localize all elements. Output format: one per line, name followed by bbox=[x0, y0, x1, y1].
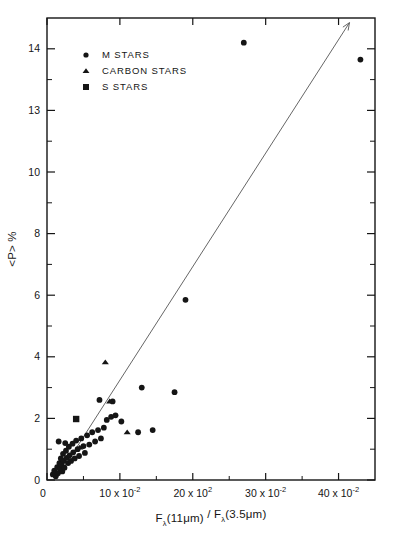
y-tick-label: 2 bbox=[34, 412, 40, 424]
y-tick-label: 13 bbox=[28, 104, 40, 116]
data-point bbox=[78, 436, 84, 442]
y-tick-label: 10 bbox=[28, 166, 40, 178]
data-point bbox=[82, 450, 88, 456]
data-point bbox=[73, 438, 79, 444]
y-tick-label: 6 bbox=[34, 289, 40, 301]
data-point bbox=[135, 429, 141, 435]
data-point bbox=[84, 432, 90, 438]
data-point bbox=[183, 297, 189, 303]
data-point bbox=[97, 397, 103, 403]
data-point bbox=[56, 439, 62, 445]
data-point bbox=[150, 427, 156, 433]
data-point bbox=[92, 439, 98, 445]
data-point bbox=[73, 416, 79, 422]
data-point bbox=[113, 412, 119, 418]
y-tick-label: 8 bbox=[34, 227, 40, 239]
x-tick-label: 20 x 102 bbox=[173, 485, 212, 499]
data-point bbox=[95, 427, 101, 433]
y-axis-title-text: <P> % bbox=[6, 231, 18, 267]
y-tick-label: 14 bbox=[28, 42, 40, 54]
data-point bbox=[241, 40, 247, 46]
data-point bbox=[89, 429, 95, 435]
scatter-plot: 010 x 10-220 x 10230 x 10-240 x 10-2 024… bbox=[0, 0, 398, 540]
data-point bbox=[358, 57, 364, 63]
y-tick-label: 4 bbox=[34, 350, 40, 362]
x-tick-label: 0 bbox=[40, 487, 46, 499]
data-point bbox=[98, 436, 104, 442]
data-point bbox=[139, 385, 145, 391]
legend-marker-square bbox=[83, 84, 89, 90]
legend-label: CARBON STARS bbox=[102, 65, 187, 76]
data-point bbox=[118, 419, 124, 425]
legend-label: M STARS bbox=[102, 49, 150, 60]
y-tick-label: 0 bbox=[34, 474, 40, 486]
legend-label: S STARS bbox=[102, 81, 148, 92]
data-point bbox=[62, 440, 68, 446]
figure-container: 010 x 10-220 x 10230 x 10-240 x 10-2 024… bbox=[0, 0, 398, 540]
data-point bbox=[172, 389, 178, 395]
data-point bbox=[76, 453, 82, 459]
data-point bbox=[62, 465, 68, 471]
series-s-stars bbox=[73, 416, 79, 422]
y-axis-title: <P> % bbox=[6, 231, 18, 267]
data-point bbox=[101, 425, 107, 431]
data-point bbox=[86, 442, 92, 448]
legend-marker-circle bbox=[83, 52, 88, 57]
